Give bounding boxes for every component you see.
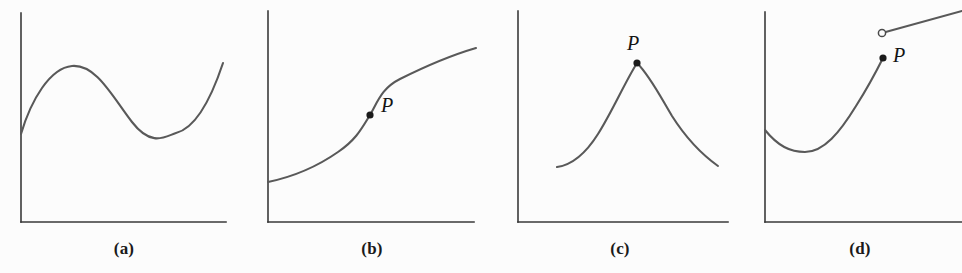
filled-point-marker-d-0	[879, 54, 886, 61]
panels-group: PPP	[21, 11, 962, 222]
figure-canvas: PPP	[0, 0, 962, 273]
curve-c	[557, 63, 718, 167]
panel-a	[21, 13, 226, 222]
panel-caption-b: (b)	[361, 239, 382, 259]
panel-caption-d: (d)	[849, 239, 870, 259]
open-point-marker-d-1	[878, 29, 885, 36]
point-label-c-0: P	[626, 32, 639, 54]
curve-a	[21, 63, 223, 138]
curve-d	[765, 58, 883, 152]
curve-segment-2-d	[882, 11, 962, 33]
panel-c: P	[518, 11, 728, 222]
panel-caption-c: (c)	[610, 239, 629, 259]
figure-container: PPP (a)(b)(c)(d)	[0, 0, 962, 273]
panel-b: P	[268, 11, 476, 222]
panel-d: P	[765, 11, 962, 222]
point-label-b-0: P	[380, 94, 393, 116]
point-label-d-0: P	[892, 44, 905, 66]
panel-caption-a: (a)	[114, 239, 134, 259]
filled-point-marker-b-0	[366, 111, 373, 118]
filled-point-marker-c-0	[633, 59, 640, 66]
